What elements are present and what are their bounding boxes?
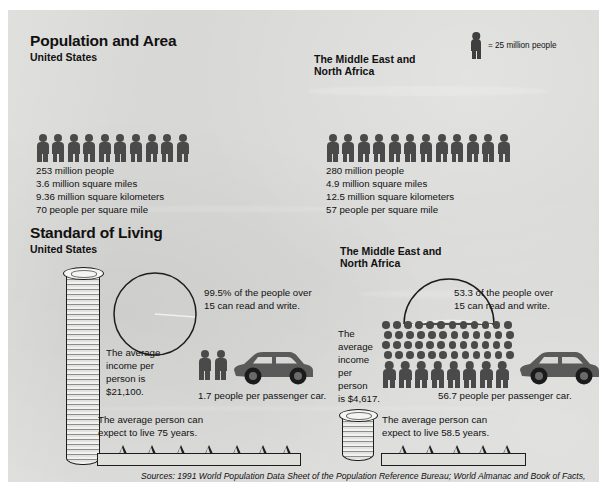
candle-icon [479,445,487,454]
stat-mena-population: 280 million people [326,165,404,178]
candle-icon [259,445,267,454]
literacy-text-us-line1: 99.5% of the people over [204,287,312,300]
person-icon [479,361,493,388]
person-icon [420,134,433,162]
literacy-pie-us [112,271,198,357]
candle-icon [283,445,291,454]
source-line: Sources: 1991 World Population Data Shee… [141,471,599,482]
stat-us-area-km: 9.36 million square kilometers [36,191,164,204]
person-icon [326,134,339,162]
income-amount-us: $21,100. [106,386,144,399]
candle-icon [177,445,185,454]
person-icon [67,134,80,162]
candle-icon [148,445,156,454]
person-icon [435,134,448,162]
panel-region-mena-living-line2: North Africa [340,257,400,269]
coin-top-disc [339,409,378,422]
cars-text-mena: 56.7 people per passenger car. [438,390,572,403]
panel-region-mena-population-line1: The Middle East and [314,53,416,65]
coin-stack-mena [342,414,372,460]
cars-text-us: 1.7 people per passenger car. [198,390,326,403]
life-text-us-line1: The average person can [98,414,203,427]
person-icon [388,134,401,162]
panel-region-mena-population-line2: North Africa [314,65,374,77]
birthday-cake-us [97,440,301,466]
person-icon [431,361,445,388]
person-icon [342,134,355,162]
car-icon-us [230,348,316,388]
person-icon [83,134,96,162]
panel-region-mena-living-line1: The Middle East and [340,245,442,257]
income-text-mena-line2: average [338,341,373,354]
person-icon [145,134,158,162]
coin-stack-us [66,272,98,464]
birthday-cake-mena [381,440,526,466]
income-text-mena-line1: The [338,328,355,341]
background-texture [88,406,508,411]
income-text-mena-line4: per [338,367,352,380]
literacy-text-mena-line2: 15 can read and write. [454,300,550,313]
stat-us-density: 70 people per square mile [36,204,148,217]
stat-mena-area-km: 12.5 million square kilometers [326,191,454,204]
person-icon [176,134,189,162]
income-text-us-line1: The average [106,347,160,360]
person-icon [447,361,461,388]
candle-icon [399,445,407,454]
stat-us-area-miles: 3.6 million square miles [36,178,137,191]
life-text-mena-line2: expect to live 58.5 years. [382,427,489,440]
person-icon [398,361,412,388]
person-icon [114,134,127,162]
person-icon [214,350,227,380]
income-text-us-line2: income per [106,360,154,373]
person-icon [498,134,511,162]
pictogram-row-us-population [36,134,189,162]
pictogram-people-us-cars [198,350,227,380]
cake-slab [97,453,301,466]
person-icon [373,134,386,162]
person-icon [161,134,174,162]
candle-icon [453,445,461,454]
person-icon [470,32,482,59]
candle-icon [119,445,127,454]
person-icon [52,134,65,162]
person-icon [482,134,495,162]
stat-mena-density: 57 people per square mile [326,204,438,217]
person-icon [98,134,111,162]
panel-region-us-population: United States [30,51,97,63]
income-amount-mena: is $4,617. [338,393,380,406]
candle-icon [205,445,213,454]
person-icon [198,350,211,380]
background-texture [308,86,548,96]
literacy-text-mena-line1: 53.3 of the people over [454,287,553,300]
person-icon [357,134,370,162]
panel-region-us-living: United States [30,243,97,255]
infographic-poster: = 25 million people = 25 million people … [8,10,599,482]
person-icon [36,134,49,162]
literacy-text-us-line2: 15 can read and write. [204,300,300,313]
life-text-mena-line1: The average person can [382,414,487,427]
legend-label-text: = 25 million people [488,41,557,50]
income-text-us-line3: person is [106,373,145,386]
stat-mena-area-miles: 4.9 million square miles [326,178,427,191]
pictogram-row-mena-population [326,134,511,162]
income-text-mena-line5: person [338,380,368,393]
person-icon [451,134,464,162]
person-icon [414,361,428,388]
candle-icon [426,445,434,454]
crowd-pictogram-mena [382,321,518,387]
person-icon [463,361,477,388]
stat-us-population: 253 million people [36,165,114,178]
person-icon [130,134,143,162]
person-icon [404,134,417,162]
coin-stack-body [66,272,100,465]
life-text-us-line2: expect to live 75 years. [98,427,197,440]
legend-group: = 25 million people [470,32,590,66]
section-title-standard-of-living: Standard of Living [30,225,162,241]
candle-icon [233,445,241,454]
person-icon [382,361,396,388]
section-title-population: Population and Area [30,33,176,49]
income-text-mena-line3: income [338,354,369,367]
car-icon-mena [516,348,599,388]
person-icon [495,361,509,388]
person-icon [466,134,479,162]
